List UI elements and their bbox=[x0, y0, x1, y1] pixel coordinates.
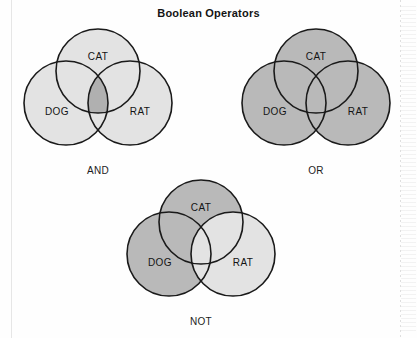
and-label-dog: DOG bbox=[45, 106, 69, 117]
and-label-rat: RAT bbox=[130, 106, 150, 117]
scan-artifact-left bbox=[11, 0, 12, 338]
figure-canvas: Boolean Operators bbox=[0, 0, 417, 338]
venn-diagram-not: CAT DOG RAT bbox=[117, 178, 285, 308]
figure-title: Boolean Operators bbox=[0, 7, 417, 19]
caption-not: NOT bbox=[161, 316, 241, 327]
or-label-cat: CAT bbox=[306, 51, 326, 62]
or-label-rat: RAT bbox=[348, 106, 368, 117]
and-label-cat: CAT bbox=[88, 51, 108, 62]
scan-artifact-column bbox=[401, 6, 416, 332]
caption-and: AND bbox=[58, 165, 138, 176]
venn-diagram-or: CAT DOG RAT bbox=[232, 27, 400, 157]
not-label-dog: DOG bbox=[148, 257, 172, 268]
not-label-rat: RAT bbox=[233, 257, 253, 268]
not-label-cat: CAT bbox=[191, 202, 211, 213]
or-label-dog: DOG bbox=[263, 106, 287, 117]
or-circle-fills bbox=[242, 29, 390, 145]
not-circle-fills bbox=[127, 180, 275, 296]
caption-or: OR bbox=[276, 165, 356, 176]
venn-diagram-and: CAT DOG RAT bbox=[14, 27, 182, 157]
